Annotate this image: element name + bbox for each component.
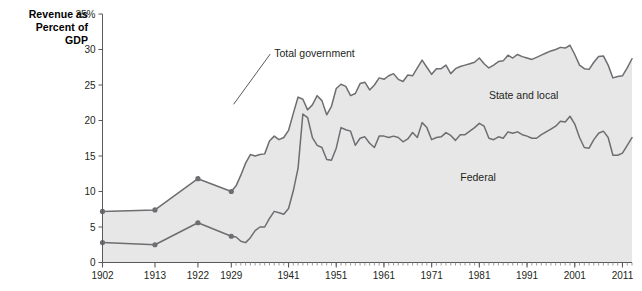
x-axis-tick-label: 1902: [91, 270, 114, 281]
annotation-state-and-local: State and local: [489, 89, 558, 101]
annotation-total-government: Total government: [274, 47, 355, 59]
y-axis-tick-label: 35%: [75, 9, 95, 20]
y-axis-tick-label: 10: [84, 186, 96, 197]
data-point-marker: [152, 207, 157, 212]
y-axis-tick-label: 20: [84, 115, 96, 126]
x-axis-tick-label: 1981: [468, 270, 491, 281]
annotation-federal: Federal: [460, 171, 496, 183]
y-axis-tick-label: 0: [90, 257, 96, 268]
chart-plot-area: 05101520253035%1902191319221929194119511…: [0, 0, 642, 291]
x-axis-tick-label: 2001: [564, 270, 587, 281]
x-axis-tick-label: 1941: [277, 270, 300, 281]
data-point-marker: [195, 220, 200, 225]
x-axis-tick-label: 2011: [612, 270, 634, 281]
y-axis-tick-label: 15: [84, 151, 96, 162]
x-axis-tick-label: 1991: [516, 270, 539, 281]
x-axis-tick-label: 1922: [187, 270, 210, 281]
x-axis-tick-label: 1951: [325, 270, 348, 281]
data-point-marker: [195, 176, 200, 181]
y-axis-tick-label: 30: [84, 44, 96, 55]
x-axis-tick-label: 1929: [220, 270, 243, 281]
x-axis-tick-label: 1913: [144, 270, 167, 281]
y-axis-tick-label: 25: [84, 80, 96, 91]
data-point-marker: [152, 242, 157, 247]
data-point-marker: [229, 189, 234, 194]
x-axis-tick-label: 1961: [373, 270, 396, 281]
revenue-percent-gdp-chart: Revenue as Percent of GDP 05101520253035…: [0, 0, 642, 291]
y-axis-tick-label: 5: [90, 222, 96, 233]
x-axis-tick-label: 1971: [421, 270, 444, 281]
data-point-marker: [229, 234, 234, 239]
annotation-leader-line: [234, 54, 271, 104]
